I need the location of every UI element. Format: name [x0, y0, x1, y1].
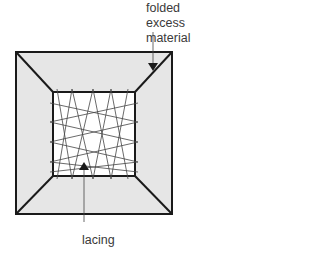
label-line-2: material	[146, 31, 220, 46]
label-line-1: folded excess	[146, 1, 220, 31]
folded-excess-material-label: folded excess material	[146, 1, 220, 46]
lacing-label: lacing	[82, 233, 115, 248]
